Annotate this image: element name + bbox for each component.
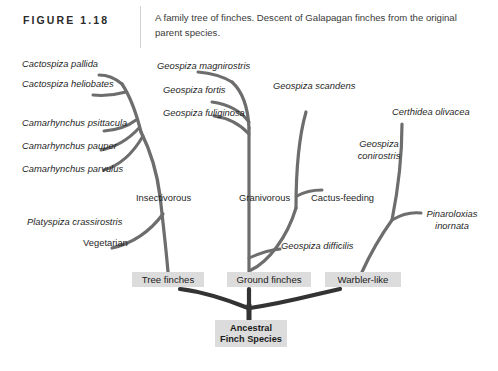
species-label-geospiza-conirostris: Geospiza conirostris	[349, 138, 409, 161]
root-box-ancestral-finch-species[interactable]: Ancestral Finch Species	[215, 320, 287, 347]
species-label-camarhynchus-pauper: Camarhynchus pauper	[22, 140, 117, 152]
clade-box-tree-finches[interactable]: Tree finches	[132, 272, 204, 287]
figure-container: FIGURE 1.18 A family tree of finches. De…	[0, 0, 498, 371]
ancestral-line-2: Finch Species	[220, 334, 282, 345]
species-label-cactospiza-heliobates: Cactospiza heliobates	[22, 78, 114, 90]
species-label-geospiza-conirostris-text: Geospiza conirostris	[358, 138, 401, 161]
species-label-pinaroloxias-inornata: Pinaroloxias inornata	[416, 208, 488, 231]
species-label-certhidea-olivacea: Certhidea olivacea	[392, 106, 470, 118]
phylogenetic-tree-graphic	[0, 0, 498, 371]
ancestral-line-1: Ancestral	[230, 323, 272, 334]
species-label-geospiza-difficilis: Geospiza difficilis	[281, 240, 353, 252]
species-label-pinaroloxias-inornata-text: Pinaroloxias inornata	[426, 208, 477, 231]
species-label-platyspiza-crassirostris: Platyspiza crassirostris	[27, 216, 122, 228]
feeding-group-label-insectivorous: Insectivorous	[136, 192, 191, 204]
clade-box-warbler-like[interactable]: Warbler-like	[325, 272, 401, 287]
species-label-geospiza-magnirostris: Geospiza magnirostris	[157, 60, 250, 72]
clade-box-ground-finches[interactable]: Ground finches	[227, 272, 311, 287]
species-label-camarhynchus-parvulus: Camarhynchus parvulus	[22, 163, 123, 175]
species-label-geospiza-fortis: Geospiza fortis	[163, 84, 226, 96]
species-label-camarhynchus-psittacula: Camarhynchus psittacula	[22, 117, 127, 129]
species-label-geospiza-fuliginosa: Geospiza fuliginosa	[163, 107, 245, 119]
feeding-group-label-vegetarian: Vegetarian	[83, 237, 128, 249]
feeding-group-label-cactus-feeding: Cactus-feeding	[311, 192, 374, 204]
species-label-cactospiza-pallida: Cactospiza pallida	[22, 58, 98, 70]
species-label-geospiza-scandens: Geospiza scandens	[273, 80, 355, 92]
feeding-group-label-granivorous: Granivorous	[239, 192, 290, 204]
